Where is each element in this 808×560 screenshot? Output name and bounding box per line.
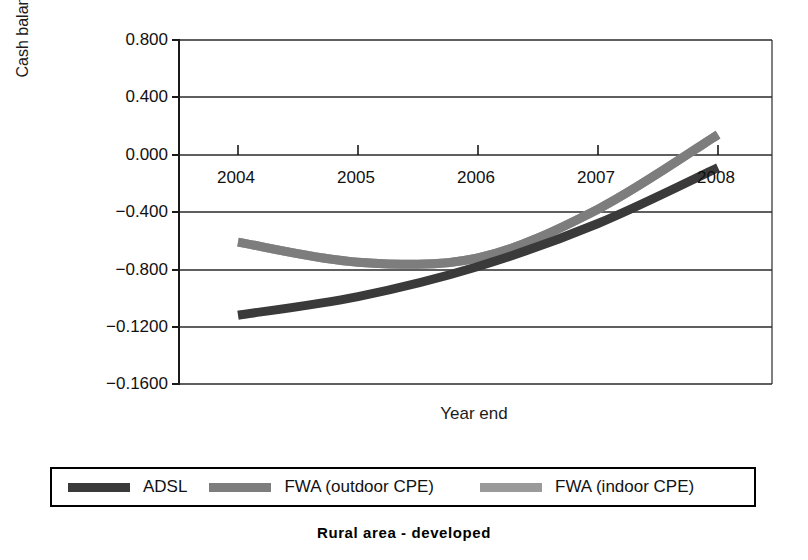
legend-label: ADSL <box>143 477 187 497</box>
chart-legend: ADSLFWA (outdoor CPE)FWA (indoor CPE) <box>50 467 756 507</box>
chart-page: Cash balance (ME) 0.8000.4000.000−0.400−… <box>0 0 808 560</box>
legend-color-swatch <box>480 483 542 492</box>
x-axis-title: Year end <box>178 404 770 424</box>
legend-entry[interactable]: FWA (indoor CPE) <box>480 477 694 497</box>
y-axis-tick-label: −0.400 <box>60 202 168 222</box>
y-axis-tick-label: −0.1600 <box>60 374 168 394</box>
legend-label: FWA (outdoor CPE) <box>284 477 434 497</box>
x-axis-tick-label: 2007 <box>577 168 615 188</box>
legend-entry[interactable]: ADSL <box>68 477 187 497</box>
x-axis-tick-label: 2006 <box>457 168 495 188</box>
legend-label: FWA (indoor CPE) <box>555 477 694 497</box>
x-axis-tick-labels: 20042005200620072008 <box>178 168 770 194</box>
figure-caption: Rural area - developed <box>0 524 808 541</box>
x-axis-tick-marks <box>238 145 718 155</box>
y-axis-tick-label: 0.400 <box>60 87 168 107</box>
legend-entries: ADSLFWA (outdoor CPE)FWA (indoor CPE) <box>52 469 754 505</box>
data-series-layer <box>238 135 718 316</box>
legend-color-swatch <box>209 483 271 492</box>
plot-svg <box>180 40 772 384</box>
y-axis-tick-label: −0.1200 <box>60 317 168 337</box>
y-axis-tick-label: 0.000 <box>60 145 168 165</box>
y-axis-tick-label: 0.800 <box>60 30 168 50</box>
legend-entry[interactable]: FWA (outdoor CPE) <box>209 477 434 497</box>
legend-color-swatch <box>68 483 130 492</box>
x-axis-tick-label: 2008 <box>697 168 735 188</box>
y-axis-title: Cash balance (ME) <box>14 0 38 124</box>
x-axis-tick-label: 2005 <box>337 168 375 188</box>
x-axis-tick-label: 2004 <box>217 168 255 188</box>
gridlines <box>180 40 772 384</box>
y-axis-tick-marks <box>172 40 180 384</box>
plot-area <box>178 40 772 384</box>
y-axis-tick-label: −0.800 <box>60 260 168 280</box>
